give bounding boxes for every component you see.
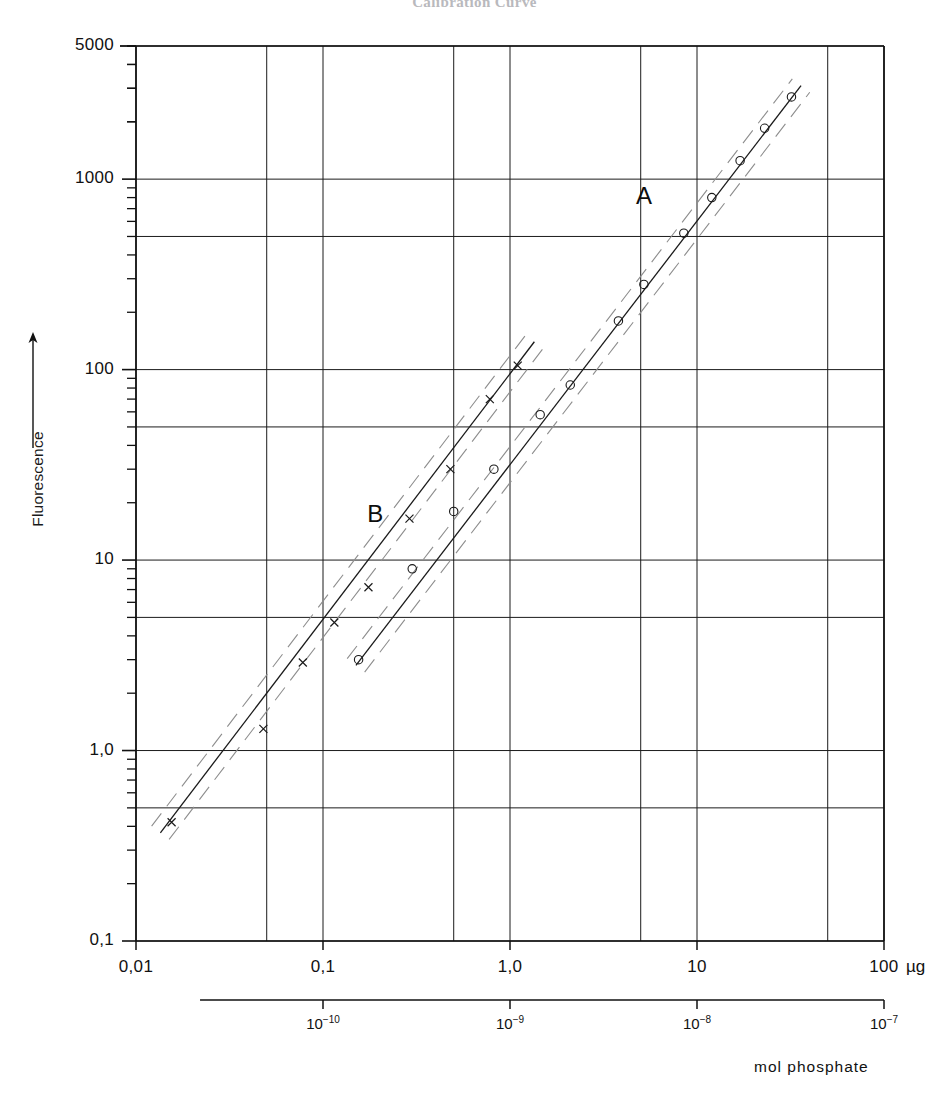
marker-open-circle (536, 410, 544, 418)
y-tick-label: 0,1 (20, 930, 114, 950)
x-axis-secondary (200, 1000, 884, 1009)
marker-open-circle (490, 465, 498, 473)
calibration-chart-figure: Calibration Curve Fluorescence 0,11,0101… (0, 0, 949, 1100)
marker-cross (299, 658, 307, 666)
x-axis-primary (136, 941, 884, 950)
confidence-band-B (152, 335, 526, 826)
secondary-x-axis-label: mol phosphate (754, 1058, 869, 1076)
y-tick-label: 1,0 (20, 740, 114, 760)
marker-cross (330, 619, 338, 627)
fit-line-B (160, 342, 534, 833)
gridlines-group (136, 46, 884, 941)
marker-cross (486, 395, 494, 403)
fit-line-A (356, 86, 801, 666)
x-tick-label: 100 (824, 957, 944, 977)
data-series-group (152, 79, 810, 840)
x-tick-label: 1,0 (450, 957, 570, 977)
y-tick-label: 10 (20, 549, 114, 569)
x-tick-label: 10 (637, 957, 757, 977)
x-tick-label: 0,01 (76, 957, 196, 977)
marker-cross (259, 725, 267, 733)
y-tick-label: 100 (20, 359, 114, 379)
series-B (152, 335, 544, 839)
y-tick-label: 1000 (20, 168, 114, 188)
marker-open-circle (408, 565, 416, 573)
secondary-x-tick-label: 10−8 (637, 1014, 757, 1032)
secondary-x-tick-label: 10−9 (450, 1014, 570, 1032)
marker-cross (405, 515, 413, 523)
series-A (347, 79, 810, 672)
y-tick-label: 5000 (20, 35, 114, 55)
confidence-band-B (169, 348, 543, 839)
marker-cross (446, 465, 454, 473)
curve-a-label: A (636, 182, 652, 210)
confidence-band-A (347, 79, 792, 659)
curve-b-label: B (367, 500, 383, 528)
secondary-x-tick-label: 10−7 (824, 1014, 944, 1032)
plot-svg (0, 0, 949, 1100)
marker-open-circle (566, 381, 574, 389)
y-tick-marks (120, 46, 136, 941)
marker-cross (364, 583, 372, 591)
x-axis-unit-label: µg (906, 957, 925, 977)
x-tick-label: 0,1 (263, 957, 383, 977)
secondary-x-tick-label: 10−10 (263, 1014, 383, 1032)
